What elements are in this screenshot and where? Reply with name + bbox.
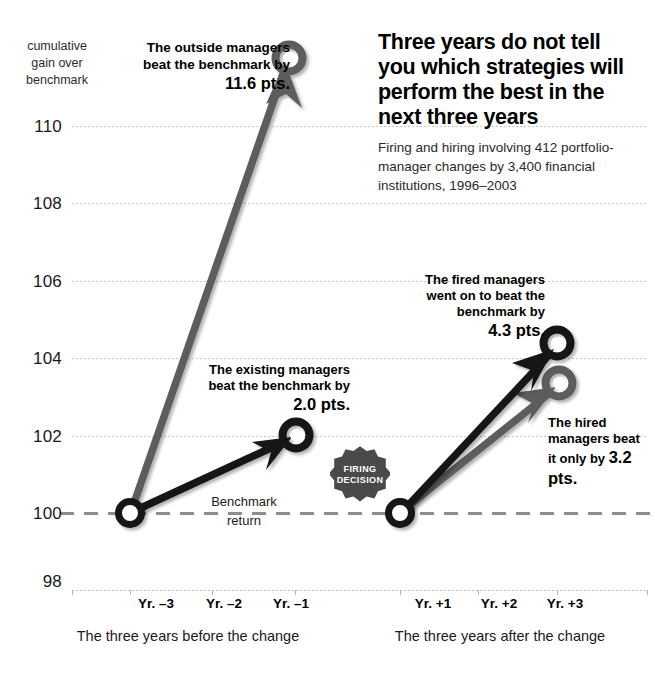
series-fired-managers [402,330,571,513]
x-tick-yr-plus-2: Yr. +2 [469,596,529,611]
x-group-label-before: The three years before the change [28,628,348,644]
annotation-existing-text: The existing managers beat the benchmark… [208,362,350,393]
seal-line-1: FIRING [344,464,377,475]
page-title: Three years do not tell you which strate… [378,30,643,130]
x-tick-yr-minus-2: Yr. –2 [194,596,254,611]
origin-marker-right [389,502,412,525]
annotation-outside-text: The outside managers beat the benchmark … [143,40,290,72]
x-tick-yr-minus-3: Yr. –3 [126,596,186,611]
annotation-fired-value: 4.3 pts. [395,320,545,340]
benchmark-label-line-2: return [227,513,261,528]
seal-line-2: DECISION [337,475,384,486]
annotation-existing-managers: The existing managers beat the benchmark… [185,362,350,415]
annotation-fired-managers: The fired managers went on to beat the b… [395,272,545,341]
firing-decision-badge: FIRING DECISION [330,445,390,505]
annotation-outside-managers: The outside managers beat the benchmark … [118,40,290,94]
x-group-label-after: The three years after the change [340,628,655,644]
origin-marker-left [119,502,142,525]
x-tick-yr-plus-1: Yr. +1 [403,596,463,611]
annotation-existing-value: 2.0 pts. [185,394,350,414]
annotation-fired-text: The fired managers went on to beat the b… [425,272,545,319]
benchmark-return-label: Benchmark return [196,493,292,531]
page-subtitle: Firing and hiring involving 412 portfoli… [378,138,628,195]
x-tick-yr-plus-3: Yr. +3 [535,596,595,611]
chart-canvas: cumulative gain over benchmark 110 108 1… [0,0,655,673]
annotation-hired-managers: The hired managers beat it only by 3.2 p… [548,415,646,488]
x-tick-yr-minus-1: Yr. –1 [261,596,321,611]
benchmark-label-line-1: Benchmark [211,494,277,509]
annotation-outside-value: 11.6 pts. [118,73,290,93]
